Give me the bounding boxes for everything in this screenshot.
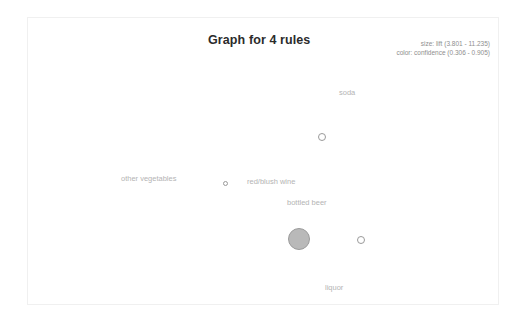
data-point-label: soda [339, 88, 355, 97]
data-point-marker[interactable] [318, 133, 326, 141]
data-point-label: red/blush wine [247, 177, 295, 186]
data-point-label: bottled beer [287, 198, 327, 207]
legend-size-line: size: lift (3.801 - 11.235) [396, 40, 490, 49]
rules-graph-plot: Graph for 4 rules size: lift (3.801 - 11… [0, 0, 526, 323]
legend: size: lift (3.801 - 11.235) color: confi… [396, 40, 490, 57]
plot-frame [27, 17, 499, 305]
data-point-marker[interactable] [357, 236, 365, 244]
page-title: Graph for 4 rules [208, 33, 310, 47]
data-point-marker[interactable] [223, 181, 228, 186]
data-point-marker[interactable] [288, 228, 310, 250]
data-point-label: other vegetables [121, 174, 176, 183]
data-point-label: liquor [325, 283, 343, 292]
legend-color-line: color: confidence (0.306 - 0.905) [396, 49, 490, 58]
